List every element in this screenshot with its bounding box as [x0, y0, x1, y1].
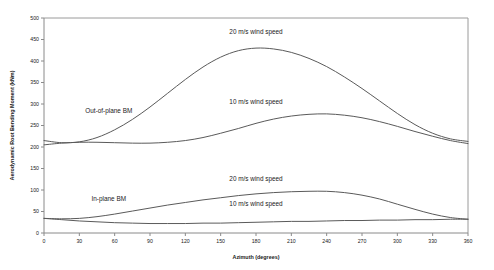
y-tick-label: 200: [30, 144, 39, 150]
out-of-plane-bm-label: Out-of-plane BM: [85, 107, 132, 115]
x-tick-label: 330: [428, 238, 437, 244]
y-tick-label: 150: [30, 165, 39, 171]
y-axis-tick-labels: 050100150200250300350400450500: [30, 15, 39, 236]
x-axis-tick-labels: 0306090120150180210240270300330360: [43, 238, 473, 244]
y-tick-label: 100: [30, 187, 39, 193]
x-tick-label: 360: [464, 238, 473, 244]
y-tick-label: 50: [33, 208, 39, 214]
x-tick-label: 210: [287, 238, 296, 244]
in-plane-bm-label: In-plane BM: [92, 195, 126, 203]
ip-20ms-label: 20 m/s wind speed: [229, 175, 283, 183]
curve-annotations: Out-of-plane BMIn-plane BM20 m/s wind sp…: [85, 28, 283, 208]
x-tick-label: 150: [216, 238, 225, 244]
x-tick-label: 300: [393, 238, 402, 244]
y-tick-label: 250: [30, 122, 39, 128]
x-tick-label: 270: [358, 238, 367, 244]
y-axis-title: Aerodynamic Root Bending Moment (kNm): [9, 70, 15, 180]
x-tick-label: 120: [181, 238, 190, 244]
y-tick-label: 350: [30, 79, 39, 85]
y-tick-label: 300: [30, 101, 39, 107]
x-tick-label: 240: [322, 238, 331, 244]
ip-10ms-label: 10 m/s wind speed: [229, 200, 283, 208]
x-tick-label: 30: [76, 238, 82, 244]
x-tick-label: 60: [112, 238, 118, 244]
oop-20ms-label: 20 m/s wind speed: [229, 28, 283, 36]
x-tick-label: 180: [252, 238, 261, 244]
y-tick-label: 0: [36, 230, 39, 236]
y-tick-label: 400: [30, 58, 39, 64]
y-tick-label: 450: [30, 36, 39, 42]
y-tick-label: 500: [30, 15, 39, 21]
chart-figure: 0306090120150180210240270300330360 05010…: [0, 0, 494, 270]
oop-10ms-label: 10 m/s wind speed: [229, 98, 283, 106]
x-tick-label: 0: [43, 238, 46, 244]
x-axis-title: Azimuth (degrees): [232, 254, 279, 260]
line-chart-canvas: 0306090120150180210240270300330360 05010…: [0, 0, 494, 270]
curve-series-3: [44, 218, 468, 223]
x-tick-label: 90: [147, 238, 153, 244]
